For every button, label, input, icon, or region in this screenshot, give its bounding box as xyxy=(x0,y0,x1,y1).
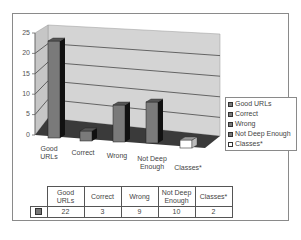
bar-correct xyxy=(80,128,97,141)
legend-item-good-urls: Good URLs xyxy=(228,99,294,109)
ytick-label: 10 xyxy=(16,90,30,97)
ytick-label: 5 xyxy=(16,110,30,117)
legend-item-wrong: Wrong xyxy=(228,119,294,129)
chart-side-wall xyxy=(35,25,48,135)
chart-back-wall xyxy=(48,25,220,136)
chart-data-table: GoodURLs Correct Wrong Not DeepEnough Cl… xyxy=(30,186,233,218)
legend-swatch-icon xyxy=(228,112,233,117)
legend-item-correct: Correct xyxy=(228,109,294,119)
data-table-row: 22 3 9 10 2 xyxy=(31,207,233,218)
data-table-cell: 2 xyxy=(195,207,232,218)
bar-not-deep-enough xyxy=(146,99,163,143)
legend-key-icon xyxy=(31,207,48,218)
legend-item-not-deep-enough: Not Deep Enough xyxy=(228,129,294,139)
data-table-cell: 3 xyxy=(84,207,121,218)
bar-good-urls xyxy=(48,38,65,138)
data-table-cell: 22 xyxy=(47,207,84,218)
legend-swatch-icon xyxy=(228,132,233,137)
ytick-label: 25 xyxy=(16,29,30,36)
bar-wrong xyxy=(113,102,130,142)
data-table-header: Classes* xyxy=(195,187,232,207)
data-table-cell: 10 xyxy=(158,207,195,218)
legend-item-classes: Classes* xyxy=(228,139,294,149)
xaxis-label-not-deep-enough: Not DeepEnough xyxy=(132,155,172,171)
legend-swatch-icon xyxy=(228,122,233,127)
data-table-header: GoodURLs xyxy=(47,187,84,207)
chart-legend: Good URLs Correct Wrong Not Deep Enough … xyxy=(225,97,297,151)
xaxis-label-good-urls: GoodURLs xyxy=(34,145,64,161)
data-table-header: Wrong xyxy=(121,187,158,207)
xaxis-label-correct: Correct xyxy=(66,149,100,157)
xaxis-label-classes: Classes* xyxy=(170,164,206,172)
data-table-cell: 9 xyxy=(121,207,158,218)
ytick-label: 20 xyxy=(16,49,30,56)
ytick-label: 0 xyxy=(16,131,30,138)
data-table-header: Correct xyxy=(84,187,121,207)
bar-classes xyxy=(180,137,197,148)
xaxis-label-wrong: Wrong xyxy=(102,152,132,160)
data-table-header-row: GoodURLs Correct Wrong Not DeepEnough Cl… xyxy=(31,187,233,207)
legend-swatch-icon xyxy=(228,102,233,107)
data-table-header: Not DeepEnough xyxy=(158,187,195,207)
ytick-label: 15 xyxy=(16,70,30,77)
legend-swatch-icon xyxy=(228,142,233,147)
